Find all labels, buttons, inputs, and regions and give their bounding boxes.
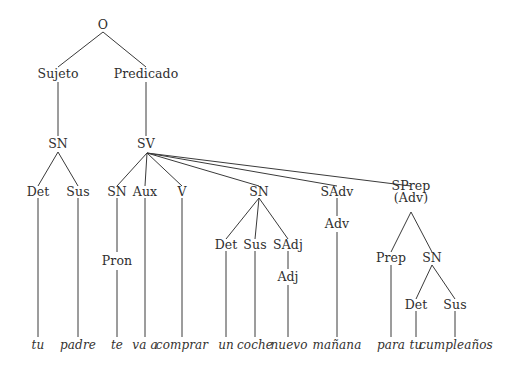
node-sadv: SAdv [320, 185, 353, 198]
leaf-un: un [218, 339, 234, 352]
node-adj: Adj [277, 270, 298, 283]
node-sv: SV [137, 137, 155, 150]
node-sujeto: Sujeto [37, 67, 78, 80]
leaf-te: te [111, 339, 123, 352]
tree-node-labels: O Sujeto Predicado SN SV Det Sus SN Aux … [0, 0, 512, 369]
leaf-padre: padre [60, 339, 96, 352]
node-sn-subject: SN [48, 137, 68, 150]
node-sn-pron: SN [107, 185, 127, 198]
leaf-tu-1: tu [32, 339, 45, 352]
node-sn-object: SN [249, 185, 269, 198]
leaf-nuevo: nuevo [270, 339, 307, 352]
node-o: O [98, 18, 108, 31]
node-adv: Adv [325, 217, 349, 230]
node-det-subject: Det [27, 185, 50, 198]
node-sprep-sublabel: (Adv) [392, 192, 431, 205]
leaf-para: para [377, 339, 405, 352]
node-sus-subject: Sus [66, 185, 89, 198]
node-prep: Prep [376, 251, 406, 264]
node-v: V [177, 185, 186, 198]
node-sus-prep: Sus [443, 298, 466, 311]
node-sprep: SPrep (Adv) [392, 179, 431, 204]
leaf-va-a: va a [132, 339, 157, 352]
node-pron: Pron [102, 254, 132, 267]
node-det-object: Det [215, 238, 238, 251]
leaf-cumpleanos: cumpleaños [419, 339, 493, 352]
node-predicado: Predicado [114, 67, 179, 80]
node-sadj: SAdj [273, 238, 303, 251]
node-sus-object: Sus [243, 238, 266, 251]
leaf-comprar: comprar [156, 339, 208, 352]
leaf-coche: coche [237, 339, 273, 352]
node-det-prep: Det [405, 298, 428, 311]
node-aux: Aux [133, 185, 157, 198]
leaf-manana: mañana [313, 339, 362, 352]
node-sn-prep: SN [422, 251, 442, 264]
